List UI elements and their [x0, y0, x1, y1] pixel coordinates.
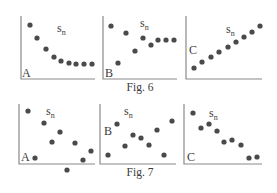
data-point [32, 155, 37, 160]
data-point [34, 35, 39, 40]
data-point [208, 54, 213, 59]
data-point [105, 152, 110, 157]
data-point [163, 37, 168, 42]
data-point [123, 30, 128, 35]
series-label: sn [209, 106, 218, 122]
data-point [155, 37, 160, 42]
panel-letter: A [22, 66, 31, 80]
series-label-sub: n [214, 113, 218, 122]
panel-letter: C [187, 150, 195, 164]
panel-c: Csn [186, 16, 263, 79]
data-point [25, 108, 30, 113]
series-label-sub: n [51, 111, 55, 120]
data-point [146, 142, 151, 147]
panel-letter: C [189, 43, 197, 57]
data-point [64, 167, 69, 172]
data-point [88, 148, 93, 153]
figure-caption: Fig. 6 [127, 81, 154, 94]
panel-letter: B [105, 66, 113, 80]
data-point [154, 127, 159, 132]
data-point [27, 22, 32, 27]
series-label-sub: n [62, 28, 66, 37]
panel-a: Asn [21, 16, 95, 80]
data-point [138, 135, 143, 140]
series-label-sub: n [129, 111, 133, 120]
series-label-sub: n [231, 29, 235, 38]
panel-b: Bsn [100, 104, 176, 164]
data-point [169, 118, 174, 123]
data-point [148, 42, 153, 47]
data-point [140, 35, 145, 40]
panel-a: Asn [19, 104, 95, 173]
axes [184, 104, 262, 164]
data-point [132, 48, 137, 53]
data-point [66, 60, 71, 65]
data-point [58, 58, 63, 63]
data-point [198, 125, 203, 130]
data-point [72, 140, 77, 145]
data-point [225, 44, 230, 49]
series-label: sn [57, 21, 66, 37]
panel-letter: A [21, 150, 30, 164]
data-point [216, 49, 221, 54]
data-point [246, 155, 251, 160]
data-point [171, 37, 176, 42]
series-label: sn [226, 22, 235, 38]
data-point [57, 129, 62, 134]
series-label: sn [46, 104, 55, 120]
data-point [190, 110, 195, 115]
data-point [233, 39, 238, 44]
data-point [51, 54, 56, 59]
data-point [206, 121, 211, 126]
figure-canvas: AsnBsnCsnFig. 6AsnBsnCsnFig. 7 [0, 0, 277, 193]
data-point [122, 143, 127, 148]
data-point [214, 128, 219, 133]
data-point [249, 29, 254, 34]
data-point [257, 23, 262, 28]
series-label-sub: n [145, 23, 149, 32]
data-point [241, 34, 246, 39]
series-label: sn [124, 104, 133, 120]
data-point [114, 121, 119, 126]
data-point [49, 139, 54, 144]
data-point [115, 60, 120, 65]
data-point [130, 132, 135, 137]
data-point [43, 46, 48, 51]
data-point [41, 120, 46, 125]
panel-c: Csn [184, 104, 262, 164]
data-point [254, 154, 259, 159]
axes [186, 16, 262, 79]
data-point [191, 65, 196, 70]
panel-letter: B [104, 124, 112, 138]
series-label: sn [140, 16, 149, 32]
data-point [89, 61, 94, 66]
data-point [221, 139, 226, 144]
data-point [199, 59, 204, 64]
data-point [108, 23, 113, 28]
data-point [229, 137, 234, 142]
figure-6: AsnBsnCsnFig. 6 [21, 16, 263, 94]
data-point [238, 142, 243, 147]
data-point [161, 152, 166, 157]
panel-b: Bsn [103, 16, 177, 80]
data-point [80, 157, 85, 162]
data-point [81, 61, 86, 66]
axes [19, 104, 95, 164]
data-point [73, 61, 78, 66]
figure-caption: Fig. 7 [127, 166, 154, 179]
figure-7: AsnBsnCsnFig. 7 [19, 104, 262, 179]
